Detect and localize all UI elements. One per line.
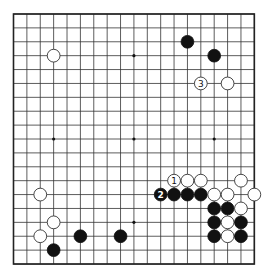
star-point-icon [132, 137, 135, 140]
white-stone [221, 77, 234, 90]
black-stone [74, 230, 87, 243]
black-stone [235, 216, 248, 229]
white-stone [221, 216, 234, 229]
white-stone-icon [181, 174, 194, 187]
black-stone-icon [181, 35, 194, 48]
white-stone-icon [47, 49, 60, 62]
black-stone-move-2: 2 [154, 188, 167, 201]
black-stone [181, 188, 194, 201]
black-stone [208, 230, 221, 243]
black-stone [168, 188, 181, 201]
white-stone-icon [34, 188, 47, 201]
white-stone [181, 174, 194, 187]
black-stone-icon [221, 202, 234, 215]
black-stone [208, 202, 221, 215]
black-stone-icon [47, 244, 60, 257]
white-stone-move-1: 1 [168, 174, 181, 187]
black-stone [181, 35, 194, 48]
star-point-icon [52, 137, 55, 140]
white-stone-icon [235, 174, 248, 187]
go-board-diagram: 312 [0, 0, 270, 278]
white-stone [248, 188, 261, 201]
black-stone-icon [168, 188, 181, 201]
black-stone [235, 230, 248, 243]
white-stone-icon [34, 230, 47, 243]
white-stone-icon [47, 216, 60, 229]
white-stone-icon [194, 174, 207, 187]
white-stone-move-3: 3 [194, 77, 207, 90]
white-stone-icon [221, 188, 234, 201]
black-stone [221, 202, 234, 215]
black-stone-icon [74, 230, 87, 243]
move-number-label: 2 [158, 190, 164, 200]
black-stone-icon [208, 49, 221, 62]
go-board: 312 [0, 0, 270, 278]
black-stone [47, 244, 60, 257]
black-stone [208, 49, 221, 62]
black-stone-icon [181, 188, 194, 201]
white-stone-icon [221, 77, 234, 90]
white-stone [194, 174, 207, 187]
star-point-icon [213, 137, 216, 140]
black-stone [114, 230, 127, 243]
white-stone-icon [208, 188, 221, 201]
white-stone [47, 49, 60, 62]
white-stone [34, 188, 47, 201]
white-stone [47, 216, 60, 229]
white-stone-icon [221, 230, 234, 243]
black-stone [208, 216, 221, 229]
star-point-icon [132, 54, 135, 57]
star-point-icon [132, 221, 135, 224]
white-stone [235, 174, 248, 187]
move-number-label: 3 [198, 79, 204, 89]
white-stone [221, 188, 234, 201]
black-stone [194, 188, 207, 201]
black-stone-icon [208, 216, 221, 229]
white-stone [34, 230, 47, 243]
white-stone-icon [248, 188, 261, 201]
black-stone-icon [194, 188, 207, 201]
white-stone [221, 230, 234, 243]
white-stone-icon [221, 216, 234, 229]
white-stone [208, 188, 221, 201]
black-stone-icon [235, 230, 248, 243]
black-stone-icon [208, 230, 221, 243]
white-stone [235, 202, 248, 215]
black-stone-icon [114, 230, 127, 243]
black-stone-icon [208, 202, 221, 215]
move-number-label: 1 [171, 176, 177, 186]
black-stone-icon [235, 216, 248, 229]
white-stone-icon [235, 202, 248, 215]
